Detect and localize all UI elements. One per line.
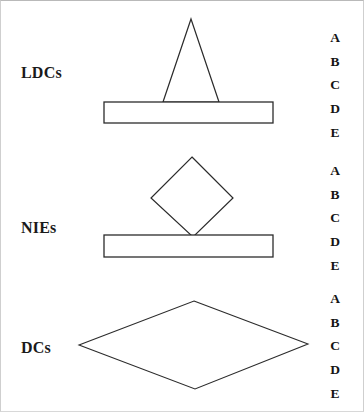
letter-item: B xyxy=(330,188,339,202)
letter-item: E xyxy=(330,259,339,273)
ldcs-shape-group xyxy=(104,19,273,123)
group-label-ldcs: LDCs xyxy=(21,65,62,81)
letter-item: C xyxy=(330,78,340,92)
letter-item: A xyxy=(330,292,340,306)
letter-item: B xyxy=(330,316,339,330)
group-label-nies: NIEs xyxy=(21,220,56,236)
shape-layer xyxy=(1,1,364,412)
figure-canvas: LDCs NIEs DCs A B C D E A B C D E A B C … xyxy=(0,0,364,412)
letter-item: E xyxy=(330,387,339,401)
nies-shape-group xyxy=(104,157,273,257)
ldcs-triangle xyxy=(163,19,219,102)
nies-base-bar xyxy=(104,235,273,257)
letter-item: A xyxy=(330,31,340,45)
letter-column-dcs: A B C D E xyxy=(324,292,346,400)
ldcs-base-bar xyxy=(104,102,273,123)
letter-column-nies: A B C D E xyxy=(324,164,346,272)
dcs-diamond xyxy=(79,301,308,389)
letter-item: E xyxy=(330,126,339,140)
letter-item: A xyxy=(330,164,340,178)
letter-item: D xyxy=(330,363,340,377)
group-label-dcs: DCs xyxy=(21,340,51,356)
letter-item: D xyxy=(330,102,340,116)
letter-column-ldcs: A B C D E xyxy=(324,31,346,139)
nies-diamond xyxy=(151,157,233,237)
dcs-shape-group xyxy=(79,301,308,389)
letter-item: C xyxy=(330,211,340,225)
letter-item: D xyxy=(330,235,340,249)
letter-item: B xyxy=(330,55,339,69)
letter-item: C xyxy=(330,339,340,353)
